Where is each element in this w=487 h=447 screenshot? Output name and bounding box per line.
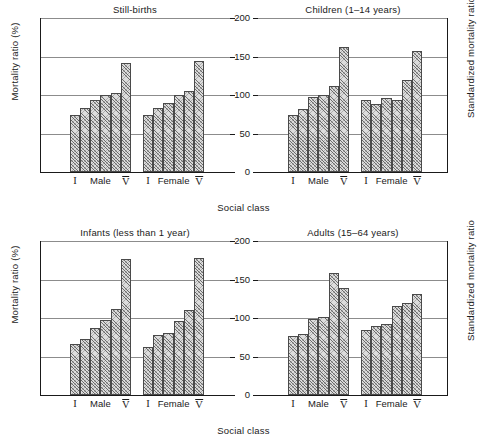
x-axis-line <box>258 395 448 396</box>
panel-infants: Infants (less than 1 year) IMaleVIFemale… <box>40 227 230 417</box>
bar <box>184 310 194 395</box>
plot-area <box>40 241 230 395</box>
bar <box>402 80 412 172</box>
panel-adults: Adults (15–64 years) 200150100500 IMaleV… <box>258 227 448 417</box>
bar <box>194 258 204 395</box>
x-label-sex: Female <box>158 176 190 186</box>
y-axis-title-left: Mortality ratio (%) <box>9 2 20 122</box>
bar <box>412 294 422 395</box>
bar <box>111 93 121 172</box>
x-label-class-last: V <box>413 176 421 187</box>
x-label-sex: Male <box>90 176 111 186</box>
y-tick <box>230 134 235 135</box>
x-axis-line <box>40 395 230 396</box>
x-axis-line <box>258 172 448 173</box>
bar <box>288 115 298 172</box>
x-label-sex: Male <box>308 399 329 409</box>
bar <box>288 336 298 395</box>
bar <box>90 328 100 395</box>
x-label-class-last: V <box>413 399 421 410</box>
x-label-class-first: I <box>291 176 295 186</box>
bar <box>318 95 328 172</box>
bar <box>329 273 339 395</box>
bar <box>80 339 90 395</box>
y-axis-title-right: Standardized mortality ratio <box>465 206 476 356</box>
x-label-sex: Male <box>90 399 111 409</box>
bar <box>90 100 100 172</box>
plot-area: 200150100500 <box>258 241 448 395</box>
bar <box>111 309 121 395</box>
y-tick-label: 50 <box>239 352 250 362</box>
bar <box>402 303 412 395</box>
bar <box>412 51 422 172</box>
bar <box>70 344 80 395</box>
y-axis-title-right: Standardized mortality ratio <box>465 0 476 133</box>
bar <box>371 326 381 395</box>
x-label-class-last: V <box>340 399 348 410</box>
y-tick <box>230 395 235 396</box>
mortality-figure: Mortality ratio (%) Standardized mortali… <box>0 0 487 447</box>
x-label-class-last: V <box>122 399 130 410</box>
bar <box>371 104 381 172</box>
panel-children: Children (1–14 years) 200150100500 IMale… <box>258 4 448 194</box>
panel-title: Infants (less than 1 year) <box>40 227 230 238</box>
bar <box>153 108 163 172</box>
y-tick <box>230 172 235 173</box>
bar <box>298 334 308 395</box>
panel-row-top: Mortality ratio (%) Standardized mortali… <box>0 4 487 216</box>
y-tick-label: 50 <box>239 129 250 139</box>
y-tick-label: 0 <box>245 167 250 177</box>
panel-title: Children (1–14 years) <box>258 4 448 15</box>
x-group-labels: IMaleVIFemaleV <box>258 399 448 415</box>
x-label-class-last: V <box>195 176 203 187</box>
x-label-class-first: I <box>146 399 150 409</box>
bar <box>100 320 110 395</box>
bar <box>392 306 402 395</box>
bar <box>163 103 173 172</box>
bar <box>153 335 163 395</box>
y-tick-label: 100 <box>234 90 250 100</box>
bar <box>339 47 349 172</box>
y-tick-label: 0 <box>245 390 250 400</box>
plot-area <box>40 18 230 172</box>
y-tick-label: 150 <box>234 275 250 285</box>
bar <box>70 115 80 172</box>
panel-still-births: Still-births IMaleVIFemaleV <box>40 4 230 194</box>
bar <box>143 115 153 172</box>
x-axis-title: Social class <box>0 425 487 436</box>
y-tick <box>253 172 258 173</box>
bar <box>163 333 173 395</box>
bar <box>361 100 371 172</box>
bar <box>392 100 402 172</box>
bar <box>121 63 131 172</box>
y-tick-label: 200 <box>234 13 250 23</box>
x-group-labels: IMaleVIFemaleV <box>258 176 448 192</box>
panel-title: Adults (15–64 years) <box>258 227 448 238</box>
x-label-sex: Male <box>308 176 329 186</box>
x-group-labels: IMaleVIFemaleV <box>40 176 230 192</box>
x-label-class-first: I <box>291 399 295 409</box>
bar-group <box>40 18 230 172</box>
bar-group <box>40 241 230 395</box>
bar-group <box>258 18 448 172</box>
panel-title: Still-births <box>40 4 230 15</box>
y-tick-label: 200 <box>234 236 250 246</box>
plot-area: 200150100500 <box>258 18 448 172</box>
x-label-class-first: I <box>364 399 368 409</box>
x-label-class-first: I <box>73 399 77 409</box>
bar <box>381 98 391 172</box>
bar <box>100 95 110 172</box>
y-tick-label: 150 <box>234 52 250 62</box>
x-label-class-last: V <box>340 176 348 187</box>
bar <box>143 347 153 395</box>
y-tick <box>253 395 258 396</box>
x-group-labels: IMaleVIFemaleV <box>40 399 230 415</box>
x-label-sex: Female <box>376 176 408 186</box>
bar <box>174 95 184 172</box>
bar <box>80 108 90 172</box>
bar <box>184 91 194 172</box>
bar <box>298 109 308 172</box>
x-label-class-last: V <box>195 399 203 410</box>
bar <box>381 324 391 395</box>
bar <box>174 321 184 395</box>
